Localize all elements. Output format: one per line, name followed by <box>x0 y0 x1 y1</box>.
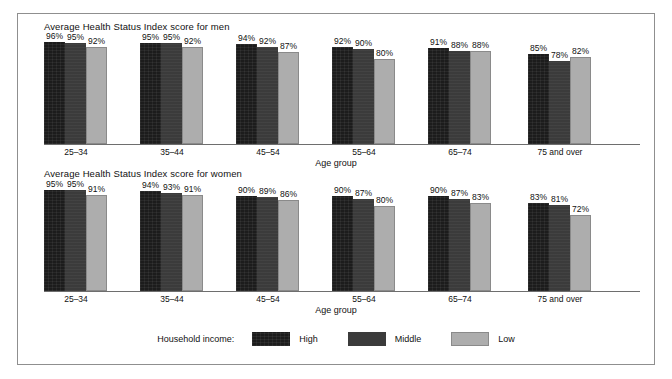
bar-group: 85%78%82% <box>528 36 592 144</box>
bar-low[interactable] <box>470 203 491 291</box>
bar-value-label: 95% <box>67 179 84 189</box>
bar-low[interactable] <box>374 59 395 144</box>
bar-low[interactable] <box>86 47 107 144</box>
bar-middle[interactable] <box>449 51 470 144</box>
bar-low[interactable] <box>182 47 203 144</box>
bar-group-bars: 94%93%91% <box>140 183 203 291</box>
bar-high[interactable] <box>140 191 161 291</box>
bar-middle[interactable] <box>65 43 86 144</box>
bar-middle[interactable] <box>549 61 570 144</box>
bar-slot: 85% <box>528 36 549 144</box>
x-axis-tick-label: 75 and over <box>520 294 600 304</box>
bar-high[interactable] <box>332 47 353 144</box>
bar-low[interactable] <box>278 52 299 144</box>
bar-high[interactable] <box>528 203 549 291</box>
bar-low[interactable] <box>570 57 591 144</box>
bar-value-label: 87% <box>280 41 297 51</box>
x-axis-tick-label: 35–44 <box>132 294 212 304</box>
bar-value-label: 91% <box>430 37 447 47</box>
x-axis-tick-label: 45–54 <box>228 294 308 304</box>
chart-figure-frame: Average Health Status Index score for me… <box>17 13 655 365</box>
bar-slot: 87% <box>449 183 470 291</box>
legend-item-high[interactable]: High <box>252 332 318 346</box>
bar-value-label: 82% <box>572 46 589 56</box>
bar-slot: 90% <box>353 36 374 144</box>
bar-slot: 95% <box>65 36 86 144</box>
bar-high[interactable] <box>236 44 257 144</box>
bar-slot: 94% <box>236 36 257 144</box>
bar-slot: 87% <box>278 36 299 144</box>
chart-legend: Household income: HighMiddleLow <box>18 326 654 352</box>
bar-value-label: 94% <box>142 180 159 190</box>
bar-slot: 95% <box>140 36 161 144</box>
x-axis-line-women <box>44 291 640 292</box>
bar-slot: 92% <box>86 36 107 144</box>
bar-low[interactable] <box>86 195 107 291</box>
bar-high[interactable] <box>140 43 161 144</box>
bar-slot: 81% <box>549 183 570 291</box>
bar-low[interactable] <box>182 195 203 291</box>
bar-value-label: 72% <box>572 204 589 214</box>
legend-swatch-low <box>451 332 489 346</box>
bar-slot: 93% <box>161 183 182 291</box>
legend-swatch-high <box>252 332 290 346</box>
bar-group: 95%95%91% <box>44 183 108 291</box>
bar-value-label: 93% <box>163 182 180 192</box>
bar-group-bars: 85%78%82% <box>528 36 591 144</box>
bar-group: 83%81%72% <box>528 183 592 291</box>
x-axis-title-women: Age group <box>18 305 654 315</box>
bar-low[interactable] <box>470 51 491 144</box>
bar-slot: 86% <box>278 183 299 291</box>
bar-middle[interactable] <box>549 205 570 291</box>
bar-high[interactable] <box>44 190 65 291</box>
bar-high[interactable] <box>428 48 449 144</box>
bar-low[interactable] <box>278 200 299 291</box>
bar-group-bars: 83%81%72% <box>528 183 591 291</box>
x-axis-tick-label: 65–74 <box>420 294 500 304</box>
bar-low[interactable] <box>374 206 395 291</box>
bar-high[interactable] <box>428 196 449 291</box>
bar-slot: 90% <box>428 183 449 291</box>
bar-value-label: 92% <box>88 36 105 46</box>
legend-item-middle[interactable]: Middle <box>348 332 422 346</box>
bar-value-label: 80% <box>376 195 393 205</box>
bar-value-label: 90% <box>430 185 447 195</box>
bar-slot: 92% <box>332 36 353 144</box>
bar-group-bars: 90%87%83% <box>428 183 491 291</box>
bar-high[interactable] <box>332 196 353 291</box>
legend-label: High <box>299 334 318 344</box>
bar-group: 96%95%92% <box>44 36 108 144</box>
bar-slot: 83% <box>470 183 491 291</box>
legend-item-low[interactable]: Low <box>451 332 515 346</box>
bar-group-bars: 95%95%91% <box>44 183 107 291</box>
bar-high[interactable] <box>528 54 549 144</box>
bar-middle[interactable] <box>353 199 374 291</box>
bar-middle[interactable] <box>449 199 470 291</box>
x-axis-tick-label: 25–34 <box>36 147 116 157</box>
bar-value-label: 90% <box>238 185 255 195</box>
bar-slot: 95% <box>65 183 86 291</box>
bar-middle[interactable] <box>161 193 182 291</box>
bar-group-bars: 94%92%87% <box>236 36 299 144</box>
bar-middle[interactable] <box>257 47 278 144</box>
bar-middle[interactable] <box>65 190 86 291</box>
bar-value-label: 86% <box>280 189 297 199</box>
bar-value-label: 87% <box>355 188 372 198</box>
bar-low[interactable] <box>570 215 591 291</box>
bar-slot: 82% <box>570 36 591 144</box>
bar-value-label: 85% <box>530 43 547 53</box>
bar-slot: 96% <box>44 36 65 144</box>
bar-high[interactable] <box>236 196 257 291</box>
x-axis-tick-label: 25–34 <box>36 294 116 304</box>
bar-group-bars: 96%95%92% <box>44 36 107 144</box>
bar-high[interactable] <box>44 42 65 144</box>
bar-value-label: 83% <box>472 192 489 202</box>
x-axis-tick-label: 35–44 <box>132 147 212 157</box>
bar-value-label: 90% <box>355 38 372 48</box>
bar-group: 90%89%86% <box>236 183 300 291</box>
bar-middle[interactable] <box>353 49 374 144</box>
bar-group-bars: 95%95%92% <box>140 36 203 144</box>
bar-slot: 95% <box>44 183 65 291</box>
bar-middle[interactable] <box>257 197 278 291</box>
bar-middle[interactable] <box>161 43 182 144</box>
